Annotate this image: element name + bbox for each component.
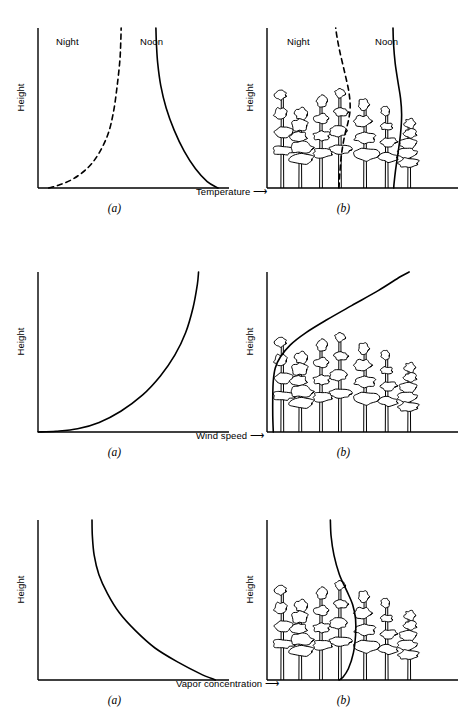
tree-crown-blob bbox=[403, 621, 417, 631]
axis-label-height: Height bbox=[244, 302, 255, 382]
tree-crown-blob bbox=[380, 630, 398, 639]
caption-panel-a: (a) bbox=[0, 202, 229, 214]
tree-crown-blob bbox=[313, 392, 332, 402]
tree-crown-blob bbox=[378, 644, 398, 654]
axis-label-vapor-concentration-text: Vapor concentration bbox=[176, 678, 262, 689]
tree-crown-blob bbox=[274, 337, 286, 347]
tree-crown-blob bbox=[354, 640, 380, 653]
tree-crown-blob bbox=[292, 611, 308, 624]
tree-crown-blob bbox=[292, 363, 308, 376]
tree-crown-blob bbox=[289, 397, 314, 408]
tree-crown-blob bbox=[354, 376, 376, 388]
tree-crown-blob bbox=[403, 129, 417, 139]
plot-wind-open bbox=[0, 244, 229, 474]
series-label-night: Night bbox=[287, 36, 310, 47]
tree-crown-blob bbox=[292, 119, 308, 132]
tree-crown-blob bbox=[358, 99, 369, 111]
tree-crown-blob bbox=[273, 602, 287, 613]
tree-crown-blob bbox=[397, 650, 419, 660]
caption-panel-a: (a) bbox=[0, 694, 229, 706]
panel-wind-open: Height (a) bbox=[0, 244, 229, 474]
tree-crown-blob bbox=[316, 339, 327, 351]
tree-crown-blob bbox=[316, 587, 327, 599]
tree-crown-blob bbox=[294, 107, 307, 120]
tree-crown-blob bbox=[404, 610, 416, 621]
axis-label-wind-speed-text: Wind speed bbox=[196, 430, 247, 441]
tree-crown-blob bbox=[316, 95, 327, 107]
axis-label-height: Height bbox=[15, 550, 26, 630]
tree-crown-blob bbox=[273, 108, 287, 119]
axis-label-height: Height bbox=[244, 550, 255, 630]
caption-panel-b: (b) bbox=[229, 446, 458, 458]
tree-crown-blob bbox=[335, 88, 346, 98]
curve-wind-speed bbox=[38, 272, 199, 432]
tree-crown-blob bbox=[291, 141, 314, 153]
tree-crown-blob bbox=[354, 392, 380, 405]
tree-crown-blob bbox=[358, 343, 369, 355]
tree-crown-blob bbox=[291, 385, 314, 397]
row-wind: Height (a) Height (b) Wind speed ⟶ bbox=[0, 244, 458, 474]
axis-label-temperature-text: Temperature bbox=[196, 186, 250, 197]
tree-crown-blob bbox=[330, 370, 347, 381]
forest-canopy bbox=[273, 88, 419, 188]
row-temperature: Height Night Noon (a) Height Night Noon … bbox=[0, 0, 458, 230]
axis-label-height: Height bbox=[244, 58, 255, 138]
tree-crown-blob bbox=[274, 585, 286, 595]
tree-crown-blob bbox=[353, 607, 372, 619]
tree-crown-blob bbox=[335, 332, 346, 342]
figure-profiles: Height Night Noon (a) Height Night Noon … bbox=[0, 0, 458, 724]
tree-crown-blob bbox=[397, 640, 417, 650]
tree-crown-blob bbox=[330, 126, 347, 137]
curve-noon bbox=[156, 28, 218, 188]
tree-crown-blob bbox=[334, 108, 349, 117]
tree-crown-blob bbox=[380, 614, 392, 621]
plot-temperature-open bbox=[0, 0, 229, 230]
axes bbox=[38, 520, 229, 680]
tree-crown-blob bbox=[403, 373, 417, 383]
tree-crown-blob bbox=[291, 633, 314, 645]
curve-vapor-concentration bbox=[92, 520, 215, 680]
tree-crown-blob bbox=[313, 375, 331, 385]
caption-panel-b: (b) bbox=[229, 202, 458, 214]
tree-crown-blob bbox=[397, 148, 417, 158]
tree-crown-blob bbox=[397, 402, 419, 412]
arrow-right-icon: ⟶ bbox=[265, 678, 279, 689]
tree-crown-blob bbox=[313, 357, 329, 367]
tree-crown-blob bbox=[330, 618, 347, 629]
tree-crown-blob bbox=[329, 389, 352, 398]
tree-crown-blob bbox=[354, 132, 376, 144]
axis-label-vapor-concentration: Vapor concentration ⟶ bbox=[176, 678, 279, 689]
tree-crown-blob bbox=[378, 396, 398, 406]
forest-canopy bbox=[273, 332, 419, 432]
curve-night bbox=[49, 28, 121, 188]
tree-crown-blob bbox=[334, 352, 349, 361]
arrow-right-icon: ⟶ bbox=[250, 430, 264, 441]
tree-crown-blob bbox=[404, 362, 416, 373]
tree-crown-blob bbox=[313, 623, 331, 633]
tree-crown-blob bbox=[358, 591, 369, 603]
tree-crown-blob bbox=[329, 637, 352, 646]
tree-crown-blob bbox=[380, 366, 392, 373]
row-vapor: Height (a) Height (b) Vapor concentratio… bbox=[0, 492, 458, 722]
axis-label-height: Height bbox=[15, 302, 26, 382]
tree-crown-blob bbox=[397, 392, 417, 402]
series-label-noon: Noon bbox=[375, 36, 398, 47]
tree-crown-blob bbox=[354, 624, 376, 636]
tree-crown-blob bbox=[381, 350, 390, 360]
curve-vapor-concentration bbox=[330, 520, 356, 680]
tree-crown-blob bbox=[313, 640, 332, 650]
caption-panel-a: (a) bbox=[0, 446, 229, 458]
tree-crown-blob bbox=[354, 148, 380, 161]
tree-crown-blob bbox=[289, 645, 314, 656]
tree-crown-blob bbox=[353, 115, 372, 127]
tree-crown-blob bbox=[313, 605, 329, 615]
tree-crown-blob bbox=[294, 599, 307, 612]
tree-crown-blob bbox=[274, 90, 286, 100]
panel-temperature-open: Height Night Noon (a) bbox=[0, 0, 229, 230]
tree-crown-blob bbox=[313, 148, 332, 158]
tree-crown-blob bbox=[313, 113, 329, 123]
tree-crown-blob bbox=[378, 152, 398, 162]
axes bbox=[38, 272, 229, 432]
axis-label-temperature: Temperature ⟶ bbox=[196, 186, 267, 197]
axes bbox=[38, 28, 229, 188]
